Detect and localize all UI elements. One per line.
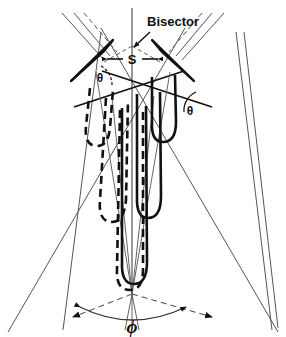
input-beam-left bbox=[62, 13, 117, 60]
separation-label: S bbox=[128, 52, 137, 67]
optics-diagram-canvas: Bisector S bbox=[0, 0, 286, 337]
output-ray-dashed-left bbox=[73, 294, 132, 317]
optics-diagram: Bisector S bbox=[0, 0, 286, 337]
outer-ray-line bbox=[236, 32, 272, 330]
angle-right-annotation: θ bbox=[184, 92, 196, 118]
separation-dimension: S bbox=[107, 52, 158, 67]
bisector-annotation: Bisector bbox=[134, 14, 199, 47]
ray-bundle-right-solid bbox=[122, 75, 176, 284]
bisector-leader-arrow bbox=[134, 32, 150, 47]
input-ray-dashed bbox=[84, 13, 117, 52]
outer-ray-line bbox=[244, 32, 278, 328]
bisector-label: Bisector bbox=[147, 14, 199, 29]
phi-angle-annotation: ϕ bbox=[80, 307, 186, 337]
prism-reference-lines bbox=[74, 71, 212, 107]
outer-ray-line bbox=[63, 32, 101, 330]
theta-right-label: θ bbox=[187, 104, 194, 118]
angle-left-annotation: θ bbox=[97, 66, 112, 86]
outer-ray-line bbox=[101, 28, 278, 332]
input-ray bbox=[62, 13, 104, 60]
phi-label: ϕ bbox=[127, 316, 138, 337]
